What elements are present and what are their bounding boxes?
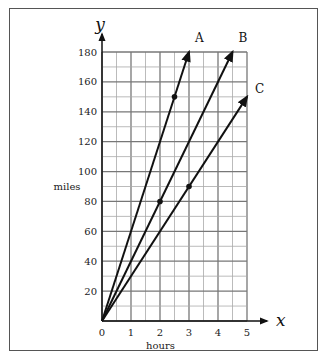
y-axis-label: miles bbox=[54, 181, 81, 192]
x-tick-label: 1 bbox=[128, 327, 134, 338]
x-tick-label: 2 bbox=[157, 327, 163, 338]
series-point-B bbox=[157, 199, 163, 205]
series-label-A: A bbox=[194, 31, 204, 45]
y-tick-label: 160 bbox=[78, 76, 97, 87]
distance-time-chart: yx01234520406080100120140160180hoursmile… bbox=[0, 0, 326, 359]
x-tick-label: 0 bbox=[99, 327, 105, 338]
series-label-B: B bbox=[239, 31, 248, 45]
x-axis-symbol: x bbox=[276, 310, 286, 330]
y-axis-symbol: y bbox=[94, 14, 105, 34]
y-tick-label: 20 bbox=[84, 286, 97, 297]
x-tick-label: 5 bbox=[244, 327, 250, 338]
y-tick-label: 100 bbox=[78, 166, 97, 177]
y-tick-label: 120 bbox=[78, 136, 97, 147]
x-tick-label: 4 bbox=[215, 327, 221, 338]
y-tick-label: 40 bbox=[84, 256, 97, 267]
series-point-A bbox=[172, 94, 178, 100]
y-tick-label: 60 bbox=[84, 226, 97, 237]
x-tick-label: 3 bbox=[186, 327, 192, 338]
x-axis-label: hours bbox=[146, 340, 175, 351]
y-tick-label: 80 bbox=[84, 196, 97, 207]
y-tick-label: 140 bbox=[78, 106, 97, 117]
series-point-C bbox=[186, 184, 192, 190]
series-label-C: C bbox=[255, 82, 264, 96]
y-tick-label: 180 bbox=[78, 47, 97, 58]
